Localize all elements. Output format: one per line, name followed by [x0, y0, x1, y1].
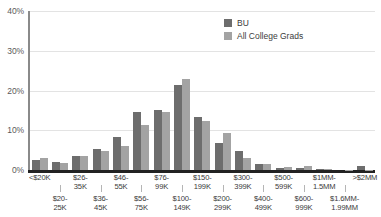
- bar: [284, 167, 292, 170]
- x-axis-tick-mark: [60, 185, 61, 192]
- bar: [357, 166, 365, 170]
- x-axis-tick-label: $600-999K: [295, 195, 314, 212]
- bar-group: [151, 11, 171, 170]
- x-axis-tick-label: $500-599K: [274, 174, 293, 191]
- x-axis-label-column: >$2MM: [355, 174, 375, 217]
- legend-item-bu: BU: [224, 16, 303, 29]
- x-axis-label-column: <$20K: [30, 174, 50, 217]
- x-axis-label-column: $500-599K: [273, 174, 293, 217]
- x-axis-tick-labels: <$20K$20-25K$26-35K$36-45K$46-55K$56-75K…: [30, 174, 376, 217]
- bar: [80, 156, 88, 170]
- bar: [296, 168, 304, 170]
- legend-swatch-icon-all-college-grads: [224, 32, 232, 40]
- bar: [194, 117, 202, 170]
- x-axis-tick-mark: [223, 185, 224, 192]
- x-axis-tick-label: $46-55K: [114, 174, 129, 191]
- bar-group: [334, 11, 354, 170]
- legend-label-bu: BU: [237, 18, 249, 28]
- y-axis-tick-label: 20%: [7, 86, 24, 96]
- bar: [174, 85, 182, 170]
- bar: [243, 158, 251, 170]
- bar: [121, 146, 129, 170]
- x-axis-label-column: $150-199K: [192, 174, 212, 217]
- x-axis-label-column: $36-45K: [90, 174, 110, 217]
- x-axis-label-column: $26-35K: [70, 174, 90, 217]
- bar-group: [50, 11, 70, 170]
- bar-group: [131, 11, 151, 170]
- x-axis-label-column: $76-99K: [151, 174, 171, 217]
- x-axis-tick-label: $76-99K: [154, 174, 169, 191]
- bar: [263, 164, 271, 170]
- x-axis-label-column: $600-999K: [294, 174, 314, 217]
- x-axis-tick-mark: [345, 185, 346, 192]
- bar: [101, 151, 109, 170]
- x-axis-tick-mark: [304, 185, 305, 192]
- x-axis-label-column: $100-149K: [172, 174, 192, 217]
- plot-area: 0%10%20%30%40%: [28, 11, 375, 170]
- bar: [235, 151, 243, 170]
- x-axis-tick-label: $20-25K: [53, 195, 68, 212]
- y-axis-tick-label: 40%: [7, 6, 24, 16]
- x-axis-tick-label: $200-299K: [213, 195, 232, 212]
- x-axis-label-column: $56-75K: [131, 174, 151, 217]
- x-axis-label-column: $200-299K: [212, 174, 232, 217]
- x-axis-tick-label: $26-35K: [73, 174, 88, 191]
- income-distribution-bar-chart: 0%10%20%30%40% BU All College Grads <$20…: [0, 0, 381, 217]
- bar: [154, 110, 162, 170]
- x-axis-tick-label: $150-199K: [193, 174, 212, 191]
- bar: [32, 160, 40, 170]
- bar-group: [314, 11, 334, 170]
- bar: [316, 169, 324, 170]
- x-axis-tick-label: >$2MM: [353, 174, 378, 183]
- x-axis-tick-label: $56-75K: [134, 195, 149, 212]
- x-axis-tick-label: $1MM-1.5MM: [313, 174, 336, 191]
- bar-group: [70, 11, 90, 170]
- bar: [304, 166, 312, 170]
- bar: [133, 112, 141, 170]
- legend-swatch-icon-bu: [224, 19, 232, 27]
- bar: [182, 79, 190, 170]
- bar: [162, 112, 170, 170]
- chart-legend: BU All College Grads: [224, 16, 303, 42]
- bar: [113, 137, 121, 170]
- x-axis-tick-label: $400-499K: [254, 195, 273, 212]
- x-axis-tick-label: <$20K: [29, 174, 50, 183]
- x-axis-label-column: $300-399K: [233, 174, 253, 217]
- x-axis-tick-mark: [141, 185, 142, 192]
- bar-group: [111, 11, 131, 170]
- x-axis-tick-label: $300-399K: [234, 174, 253, 191]
- bar-group: [192, 11, 212, 170]
- y-axis-tick-label: 0%: [12, 165, 24, 175]
- bar-group: [355, 11, 375, 170]
- bar: [223, 133, 231, 170]
- y-axis-tick-label: 10%: [7, 125, 24, 135]
- x-axis-tick-label: $100-149K: [173, 195, 192, 212]
- bar: [52, 162, 60, 170]
- bar: [255, 164, 263, 170]
- bar: [72, 156, 80, 170]
- x-axis-tick-label: $36-45K: [93, 195, 108, 212]
- bar: [215, 143, 223, 170]
- bar-group: [30, 11, 50, 170]
- x-axis-label-column: $20-25K: [50, 174, 70, 217]
- x-axis-tick-mark: [101, 185, 102, 192]
- x-axis-tick-mark: [182, 185, 183, 192]
- x-axis-label-column: $46-55K: [111, 174, 131, 217]
- legend-item-all-college-grads: All College Grads: [224, 29, 303, 42]
- bar-group: [172, 11, 192, 170]
- x-axis-tick-mark: [263, 185, 264, 192]
- bar: [40, 158, 48, 170]
- bar: [93, 149, 101, 170]
- bar: [276, 168, 284, 170]
- bar: [60, 163, 68, 170]
- y-axis-tick-label: 30%: [7, 46, 24, 56]
- bar: [202, 121, 210, 170]
- bar-group: [90, 11, 110, 170]
- legend-label-all-college-grads: All College Grads: [237, 31, 303, 41]
- bar: [324, 169, 332, 170]
- bar: [141, 125, 149, 170]
- bar-groups: [30, 11, 376, 170]
- x-axis-label-column: $400-499K: [253, 174, 273, 217]
